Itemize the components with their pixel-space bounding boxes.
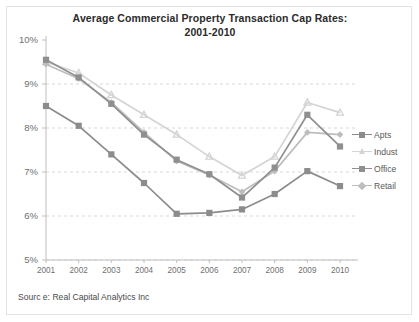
series-line-indust <box>46 62 340 176</box>
data-point <box>174 211 180 217</box>
legend-label: Apts <box>372 130 391 140</box>
legend-diamond-icon <box>358 181 366 189</box>
data-point <box>76 74 82 80</box>
legend-triangle-icon <box>359 148 365 154</box>
legend-item-office[interactable]: Office <box>352 160 416 177</box>
data-point <box>43 57 49 63</box>
data-point <box>239 206 245 212</box>
x-axis-label: 2002 <box>62 266 96 275</box>
y-axis-label: 9% <box>10 78 38 89</box>
legend-label: Retail <box>372 181 396 191</box>
data-point <box>141 132 147 138</box>
legend-marker-apts-icon <box>352 130 372 140</box>
x-axis-label: 2003 <box>94 266 128 275</box>
data-point <box>239 194 245 200</box>
data-point <box>76 123 82 129</box>
data-point <box>174 157 180 163</box>
series-indust <box>43 58 344 178</box>
data-point <box>43 103 49 109</box>
series-apts <box>43 103 343 217</box>
data-point <box>304 168 310 174</box>
data-point <box>337 183 343 189</box>
legend-item-apts[interactable]: Apts <box>352 126 416 143</box>
data-point <box>304 112 310 118</box>
legend-item-retail[interactable]: Retail <box>352 177 416 194</box>
x-axis-label: 2009 <box>290 266 324 275</box>
legend-marker-office-icon <box>352 164 372 174</box>
y-axis-label: 5% <box>10 254 38 265</box>
data-point <box>141 180 147 186</box>
x-axis-label: 2001 <box>29 266 63 275</box>
data-point <box>108 101 114 107</box>
data-point <box>272 165 278 171</box>
y-axis-label: 8% <box>10 122 38 133</box>
y-axis-label: 6% <box>10 210 38 221</box>
data-point <box>337 131 344 138</box>
data-point <box>108 151 114 157</box>
y-axis-label: 10% <box>10 34 38 45</box>
x-axis-label: 2010 <box>323 266 357 275</box>
chart-legend: AptsIndustOfficeRetail <box>352 126 416 194</box>
source-note: Sourc e: Real Capital Analytics Inc <box>18 292 149 302</box>
legend-label: Office <box>372 164 396 174</box>
x-axis-label: 2005 <box>160 266 194 275</box>
data-point <box>206 210 212 216</box>
x-axis-label: 2004 <box>127 266 161 275</box>
x-axis-label: 2007 <box>225 266 259 275</box>
legend-label: Indust <box>372 147 397 157</box>
data-point <box>272 191 278 197</box>
legend-item-indust[interactable]: Indust <box>352 143 416 160</box>
legend-square-icon <box>359 132 365 138</box>
y-axis-label: 7% <box>10 166 38 177</box>
legend-marker-retail-icon <box>352 181 372 191</box>
legend-marker-indust-icon <box>352 147 372 157</box>
x-axis-label: 2006 <box>192 266 226 275</box>
x-axis-label: 2008 <box>258 266 292 275</box>
data-point <box>337 143 343 149</box>
chart-container: Average Commercial Property Transaction … <box>0 0 419 322</box>
data-point <box>206 171 212 177</box>
legend-square-icon <box>359 166 365 172</box>
